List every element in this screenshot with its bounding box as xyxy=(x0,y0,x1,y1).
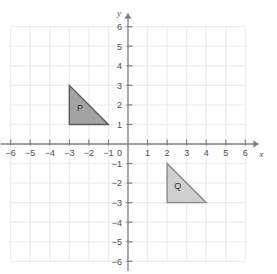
x-axis-name: x xyxy=(258,149,263,159)
y-tick-label: −4 xyxy=(112,218,122,228)
y-tick-label: −6 xyxy=(112,257,122,267)
x-tick-label: −5 xyxy=(25,148,35,158)
y-tick-label: 3 xyxy=(117,81,122,91)
y-tick-label: 4 xyxy=(117,61,122,71)
coordinate-plane-figure: −6−5−4−3−2−1123456654321−1−2−3−4−5−60 PQ… xyxy=(0,0,277,274)
x-tick-label: −4 xyxy=(45,148,55,158)
x-tick-label: −3 xyxy=(64,148,74,158)
y-tick-label: 2 xyxy=(117,100,122,110)
axis-names-group: xy xyxy=(116,8,263,159)
x-tick-label: −1 xyxy=(103,148,113,158)
x-tick-label: −6 xyxy=(6,148,16,158)
y-axis-arrowhead xyxy=(125,13,132,19)
x-tick-label: −2 xyxy=(84,148,94,158)
triangle-label-p: P xyxy=(77,103,83,113)
y-tick-label: −1 xyxy=(112,159,122,169)
y-tick-label: 1 xyxy=(117,120,122,130)
x-tick-label: 4 xyxy=(204,148,209,158)
origin-label: 0 xyxy=(117,148,122,158)
x-tick-label: 2 xyxy=(165,148,170,158)
x-axis-arrowhead xyxy=(253,141,259,148)
y-tick-label: −2 xyxy=(112,178,122,188)
y-tick-label: 5 xyxy=(117,42,122,52)
triangle-label-q: Q xyxy=(174,181,181,191)
y-tick-label: −5 xyxy=(112,237,122,247)
y-tick-label: 6 xyxy=(117,22,122,32)
coordinate-plane-svg: −6−5−4−3−2−1123456654321−1−2−3−4−5−60 PQ… xyxy=(0,0,277,274)
y-tick-label: −3 xyxy=(112,198,122,208)
x-tick-label: 6 xyxy=(243,148,248,158)
x-tick-label: 3 xyxy=(184,148,189,158)
x-tick-label: 1 xyxy=(145,148,150,158)
y-axis-name: y xyxy=(116,8,121,18)
x-tick-label: 5 xyxy=(223,148,228,158)
axes-group xyxy=(1,13,260,272)
